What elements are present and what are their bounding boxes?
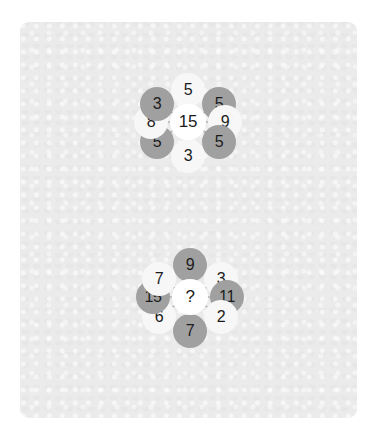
node-top-left[interactable]: 7 xyxy=(142,262,176,296)
node-top[interactable]: 9 xyxy=(173,248,207,282)
node-bottom-right[interactable]: 5 xyxy=(202,125,236,159)
node-top-left[interactable]: 3 xyxy=(140,87,174,121)
hexagon-puzzle-unsolved: 9 3 11 2 7 6 15 7 ? xyxy=(90,197,290,397)
node-center-value[interactable]: 15 xyxy=(170,104,206,140)
node-bottom[interactable]: 3 xyxy=(171,139,205,173)
node-bottom[interactable]: 7 xyxy=(173,314,207,348)
puzzle-panel: 5 5 9 5 3 5 8 3 15 9 3 11 2 7 6 15 xyxy=(20,22,357,418)
node-center-value[interactable]: ? xyxy=(172,279,208,315)
node-top[interactable]: 5 xyxy=(171,73,205,107)
node-bottom-right[interactable]: 2 xyxy=(204,300,238,334)
hexagon-puzzle-solved: 5 5 9 5 3 5 8 3 15 xyxy=(88,22,288,222)
